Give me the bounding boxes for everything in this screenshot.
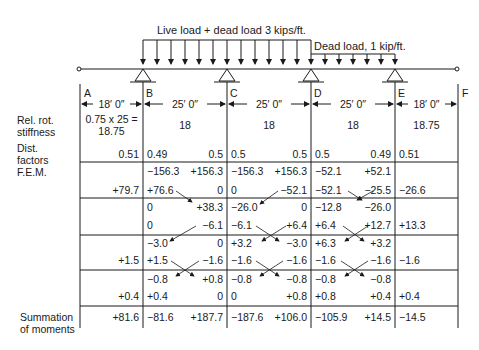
row-label-sum-1: Summation (20, 311, 73, 323)
row-label-dist-2: factors (17, 154, 49, 166)
sum-ab-right: +81.6 (80, 311, 139, 323)
bal4-ef-left: +0.4 (399, 290, 420, 302)
df-de-right: 0.49 (311, 148, 391, 160)
sum-bc-right: +187.7 (143, 311, 223, 323)
span-length-ef: 18′ 0″ (408, 98, 445, 110)
bal4-ab-right: +0.4 (80, 290, 139, 302)
row-label-stiffness-1: Rel. rot. (17, 114, 54, 126)
bal1-cd-right: −52.1 (227, 184, 307, 196)
bal3-ab-right: +1.5 (80, 254, 139, 266)
support-label-e: E (398, 87, 405, 99)
co1-bc-right: +38.3 (143, 201, 223, 213)
support-label-b: B (146, 87, 153, 99)
stiffness-ab-line2: 18.75 (80, 125, 143, 137)
right-hinge-icon (455, 67, 459, 71)
stiffness-de: 18 (311, 119, 395, 131)
stiffness-cd: 18 (227, 119, 311, 131)
bal2-ef-left: +13.3 (399, 219, 426, 231)
row-label-sum-2: of moments (20, 323, 75, 335)
bal2-de-right: +12.7 (311, 219, 391, 231)
bal4-bc-right: 0 (143, 290, 223, 302)
df-ab-right: 0.51 (80, 148, 139, 160)
support-label-d: D (314, 87, 322, 99)
bal1-de-right: −25.5 (311, 184, 391, 196)
support-label-a: A (84, 87, 91, 99)
co3-bc-right: +0.8 (143, 273, 223, 285)
row-label-fem: F.E.M. (17, 166, 47, 178)
span-length-cd: 25′ 0″ (247, 98, 291, 110)
fem-de-right: +52.1 (311, 165, 391, 177)
co2-cd-right: −3.0 (227, 237, 307, 249)
row-label-stiffness-2: stiffness (17, 126, 55, 138)
fem-bc-right: +156.3 (143, 165, 223, 177)
df-bc-right: 0.5 (143, 148, 223, 160)
bal3-ef-left: −1.6 (399, 254, 420, 266)
support-triangles (130, 69, 408, 82)
bal3-cd-right: −1.6 (227, 254, 307, 266)
span-length-de: 25′ 0″ (331, 98, 375, 110)
dead-load-block (311, 54, 395, 64)
span-length-ab: 18′ 0″ (93, 98, 130, 110)
bal1-bc-right: 0 (143, 184, 223, 196)
fem-cd-right: +156.3 (227, 165, 307, 177)
co3-de-right: −0.8 (311, 273, 391, 285)
dead-load-label: Dead load, 1 kip/ft. (314, 40, 406, 52)
bal3-bc-right: −1.6 (143, 254, 223, 266)
bal4-cd-right: +0.8 (227, 290, 307, 302)
bal1-ab-right: +79.7 (80, 184, 139, 196)
bal2-bc-right: −6.1 (143, 219, 223, 231)
bal4-de-right: +0.4 (311, 290, 391, 302)
co2-bc-right: 0 (143, 237, 223, 249)
support-label-c: C (230, 87, 238, 99)
sum-ef-left: −14.5 (399, 311, 426, 323)
co1-cd-right: 0 (227, 201, 307, 213)
support-label-f: F (462, 87, 468, 99)
live-load-label: Live load + dead load 3 kips/ft. (157, 24, 306, 36)
moment-distribution-diagram: Live load + dead load 3 kips/ft. Dead lo… (0, 0, 479, 350)
co1-de-right: −26.0 (311, 201, 391, 213)
left-hinge-icon (77, 67, 81, 71)
df-cd-right: 0.5 (227, 148, 307, 160)
df-ef-left: 0.51 (399, 148, 419, 160)
row-label-dist-1: Dist. (17, 142, 38, 154)
bal3-de-right: −1.6 (311, 254, 391, 266)
live-load-block (143, 40, 311, 64)
stiffness-ab-line1: 0.75 x 25 = (80, 113, 143, 125)
co3-cd-right: −0.8 (227, 273, 307, 285)
stiffness-bc: 18 (143, 119, 227, 131)
sum-cd-right: +106.0 (227, 311, 307, 323)
co2-de-right: +3.2 (311, 237, 391, 249)
bal2-cd-right: +6.4 (227, 219, 307, 231)
sum-de-right: +14.5 (311, 311, 391, 323)
stiffness-ef: 18.75 (395, 119, 458, 131)
span-length-bc: 25′ 0″ (163, 98, 207, 110)
bal1-ef-left: −26.6 (399, 184, 426, 196)
